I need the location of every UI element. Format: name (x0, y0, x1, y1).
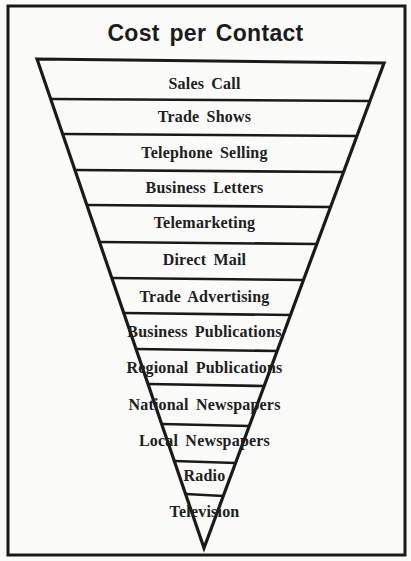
level-separator-line (63, 134, 357, 136)
level-label-telephone-selling: Telephone Selling (0, 144, 410, 162)
level-separator-line (112, 278, 304, 280)
level-label-business-letters: Business Letters (0, 179, 410, 197)
level-label-trade-shows: Trade Shows (0, 108, 410, 126)
level-separator-line (100, 242, 317, 244)
diagram-title: Cost per Contact (0, 20, 411, 47)
level-label-telemarketing: Telemarketing (0, 214, 410, 232)
level-separator-line (136, 349, 277, 351)
level-separator-line (87, 205, 331, 207)
level-separator-line (124, 313, 291, 315)
level-label-regional-publications: Regional Publications (0, 359, 410, 377)
level-label-sales-call: Sales Call (0, 75, 410, 93)
level-label-radio: Radio (0, 467, 410, 485)
level-separator-line (75, 170, 344, 172)
level-separator-line (51, 99, 370, 101)
level-label-local-newspapers: Local Newspapers (0, 432, 410, 450)
level-label-television: Television (0, 503, 410, 521)
level-separator-line (148, 384, 264, 386)
level-label-trade-advertising: Trade Advertising (0, 288, 410, 306)
level-separator-line (186, 494, 224, 496)
cost-per-contact-diagram: Cost per Contact Sales Call Trade Shows … (0, 0, 411, 561)
level-separator-line (162, 424, 250, 426)
level-label-business-publications: Business Publications (0, 323, 410, 341)
level-label-national-newspapers: National Newspapers (0, 396, 410, 414)
level-separator-line (174, 461, 235, 463)
level-label-direct-mail: Direct Mail (0, 251, 410, 269)
